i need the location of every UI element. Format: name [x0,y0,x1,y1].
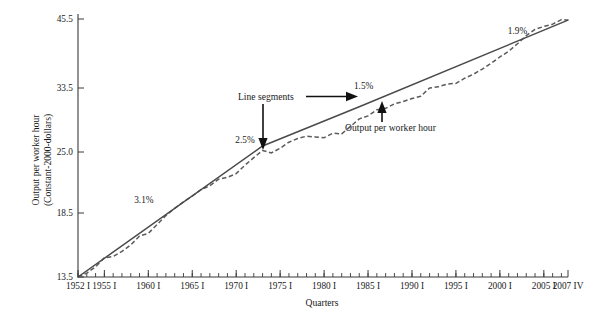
y-axis-title-group: Output per worker hour (Constant-2000-do… [30,114,54,206]
y-axis-ticks [78,19,84,277]
x-axis-tick-label: 2000 I [488,281,512,291]
growth-rate-segment-2: 2.5% [235,135,255,145]
y-axis-title-line1: Output per worker hour [30,114,41,206]
y-axis-tick-label: 45.5 [57,14,74,24]
x-axis-tick-label: 1975 I [268,281,292,291]
y-axis-tick-label: 33.5 [57,83,74,93]
y-axis-tick-label: 25.0 [57,147,74,157]
x-axis-tick-label: 1980 I [312,281,336,291]
x-axis-tick-label: 1995 I [444,281,468,291]
x-axis-tick-label: 1965 I [180,281,204,291]
x-axis-tick-label: 1970 I [224,281,248,291]
growth-rate-segment-3: 1.5% [354,81,374,91]
growth-rate-segment-4: 1.9% [508,26,528,36]
output-per-worker-hour-series [78,20,568,277]
line-segments-callout-group: Line segments [238,91,358,150]
x-axis-minor-ticks [78,273,561,277]
x-axis-tick-label: 1985 I [356,281,380,291]
x-axis-title: Quarters [305,297,338,308]
output-per-worker-hour-callout-label: Output per worker hour [345,122,437,133]
x-axis-tick-label: 2007 IV [553,281,584,291]
growth-rate-annotations: 3.1%2.5%1.5%1.9% [134,26,527,205]
x-axis-tick-label: 1952 I [66,281,90,291]
y-axis-title-line2: (Constant-2000-dollars) [42,114,54,206]
output-callout-arrowhead-up [377,101,386,113]
chart-figure: 45.533.525.018.513.5 1952 I1955 I1960 I1… [0,0,613,320]
x-axis-tick-label: 1955 I [92,281,116,291]
y-axis-tick-labels: 45.533.525.018.513.5 [57,14,74,282]
x-axis-major-ticks [78,270,568,277]
x-axis-tick-label: 1960 I [136,281,160,291]
line-segments-arrowhead-right [346,92,358,101]
y-axis-tick-label: 18.5 [57,208,74,218]
line-segments-series [78,20,568,277]
x-axis-tick-label: 1990 I [400,281,424,291]
line-segments-callout-label: Line segments [238,91,294,102]
growth-rate-segment-1: 3.1% [134,195,154,205]
x-axis-tick-labels: 1952 I1955 I1960 I1965 I1970 I1975 I1980… [66,281,584,291]
output-per-worker-hour-chart: 45.533.525.018.513.5 1952 I1955 I1960 I1… [0,0,613,320]
